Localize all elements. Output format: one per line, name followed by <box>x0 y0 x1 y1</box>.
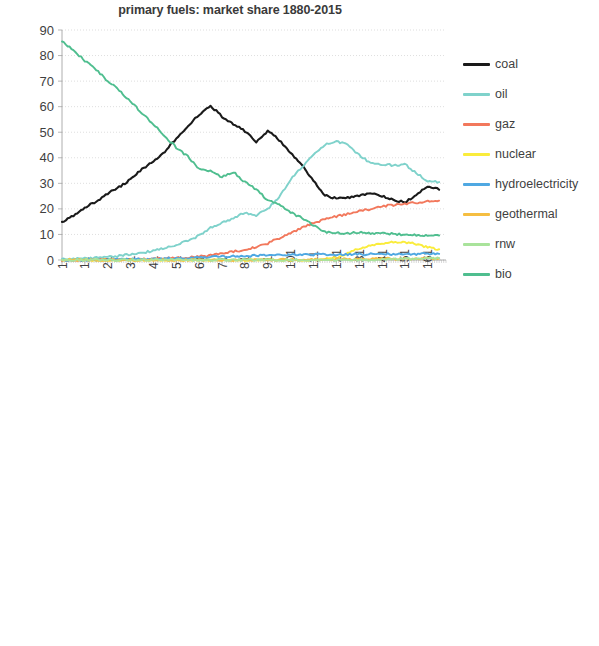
legend-label-hydroelectricity: hydroelectricity <box>495 177 578 191</box>
xtick-label: 91 <box>261 255 275 269</box>
legend-item-hydroelectricity[interactable]: hydroelectricity <box>463 169 578 199</box>
xtick-label: 31 <box>124 255 138 269</box>
legend-swatch-coal <box>463 63 490 66</box>
legend-item-gaz[interactable]: gaz <box>463 109 578 139</box>
ytick-label: 80 <box>40 48 54 63</box>
ytick-label: 50 <box>40 125 54 140</box>
legend-swatch-nuclear <box>463 153 490 156</box>
legend-item-nuclear[interactable]: nuclear <box>463 139 578 169</box>
ytick-label: 40 <box>40 150 54 165</box>
legend-label-geothermal: geothermal <box>495 207 558 221</box>
legend-label-bio: bio <box>495 267 512 281</box>
legend-swatch-hydroelectricity <box>463 183 490 186</box>
legend-label-gaz: gaz <box>495 117 515 131</box>
ytick-label: 0 <box>47 253 54 268</box>
ytick-label: 70 <box>40 74 54 89</box>
legend-swatch-rnw <box>463 243 490 246</box>
chart-panel-log: primary fuels: market share 1880-2015 (l… <box>0 326 599 646</box>
ytick-label: 10 <box>40 227 54 242</box>
legend-item-coal[interactable]: coal <box>463 49 578 79</box>
ytick-label: 20 <box>40 201 54 216</box>
chart-legend-linear: coaloilgaznuclearhydroelectricitygeother… <box>463 49 578 289</box>
series-line-oil <box>62 141 439 259</box>
xtick-label: 1 <box>56 262 70 269</box>
legend-label-oil: oil <box>495 87 508 101</box>
legend-label-rnw: rnw <box>495 237 515 251</box>
legend-swatch-gaz <box>463 123 490 126</box>
legend-item-geothermal[interactable]: geothermal <box>463 199 578 229</box>
legend-item-bio[interactable]: bio <box>463 259 578 289</box>
series-line-coal <box>62 106 439 222</box>
ytick-label: 30 <box>40 176 54 191</box>
legend-swatch-bio <box>463 273 490 276</box>
chart-plot-linear: 0102030405060708090111213141516171819110… <box>0 22 460 312</box>
ytick-label: 90 <box>40 23 54 38</box>
legend-swatch-geothermal <box>463 213 490 216</box>
ytick-label: 60 <box>40 99 54 114</box>
legend-item-rnw[interactable]: rnw <box>463 229 578 259</box>
chart-title-linear: primary fuels: market share 1880-2015 <box>0 3 460 17</box>
legend-swatch-oil <box>463 93 490 96</box>
legend-label-coal: coal <box>495 57 518 71</box>
legend-label-nuclear: nuclear <box>495 147 536 161</box>
legend-item-oil[interactable]: oil <box>463 79 578 109</box>
chart-panel-linear: primary fuels: market share 1880-2015 01… <box>0 0 599 318</box>
